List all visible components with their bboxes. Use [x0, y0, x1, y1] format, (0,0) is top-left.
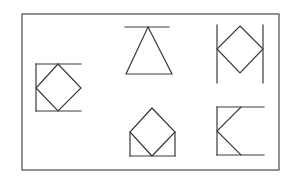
figure-1: [36, 64, 81, 111]
figure-2-shape: [126, 27, 172, 74]
figure-1-shape: [36, 64, 81, 111]
diagram-frame: [22, 14, 279, 170]
figures-group: [36, 25, 264, 156]
figure-3-shape: [217, 26, 263, 73]
figure-2: [125, 27, 172, 74]
diagram-canvas: [0, 0, 295, 183]
figure-3: [217, 25, 263, 83]
figure-5: [217, 107, 264, 155]
figure-4: [130, 108, 175, 156]
figure-4-shape: [130, 108, 175, 156]
figure-5-chevron: [217, 107, 241, 155]
